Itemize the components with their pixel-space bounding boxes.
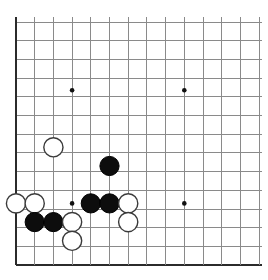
- star-point-lower-left: [70, 201, 75, 206]
- stone-black-b4[interactable]: [25, 212, 44, 231]
- stone-black-b5[interactable]: [44, 212, 63, 231]
- star-point-lower-right: [182, 201, 187, 206]
- stone-white-w3[interactable]: [25, 194, 44, 213]
- stone-white-w6[interactable]: [119, 212, 138, 231]
- stone-black-b2[interactable]: [81, 194, 100, 213]
- star-point-upper-left: [70, 88, 75, 93]
- go-board[interactable]: [0, 0, 268, 280]
- star-point-upper-right: [182, 88, 187, 93]
- go-board-container[interactable]: [0, 0, 268, 280]
- stone-black-b3[interactable]: [100, 194, 119, 213]
- stone-white-w4[interactable]: [119, 194, 138, 213]
- stone-white-w5[interactable]: [63, 212, 82, 231]
- stone-white-w1[interactable]: [44, 138, 63, 157]
- stone-white-w7[interactable]: [63, 231, 82, 250]
- stone-black-b1[interactable]: [100, 156, 119, 175]
- stone-white-w2[interactable]: [6, 194, 25, 213]
